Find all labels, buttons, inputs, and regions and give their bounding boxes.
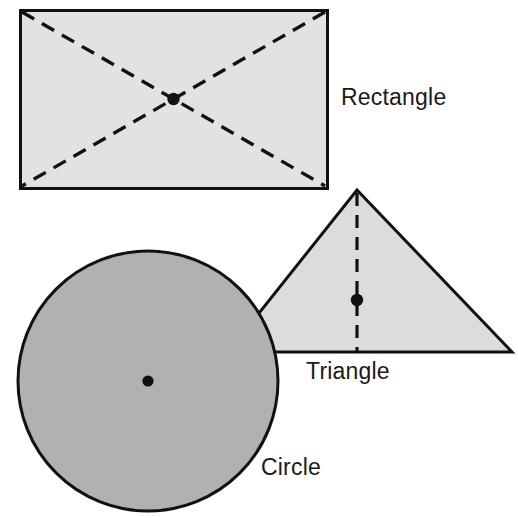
- diagram-canvas: Rectangle Triangle Circle: [0, 0, 518, 518]
- rectangle-centroid-dot: [167, 93, 179, 105]
- circle-label: Circle: [261, 456, 321, 479]
- circle-centroid-dot: [142, 375, 153, 386]
- shapes-diagram: [0, 0, 518, 518]
- shape-triangle: [228, 190, 512, 352]
- shape-circle: [18, 251, 278, 511]
- triangle-centroid-dot: [351, 294, 363, 306]
- shape-rectangle: [20, 10, 327, 188]
- triangle-label: Triangle: [306, 360, 390, 383]
- triangle-body: [228, 190, 512, 352]
- rectangle-label: Rectangle: [341, 86, 446, 109]
